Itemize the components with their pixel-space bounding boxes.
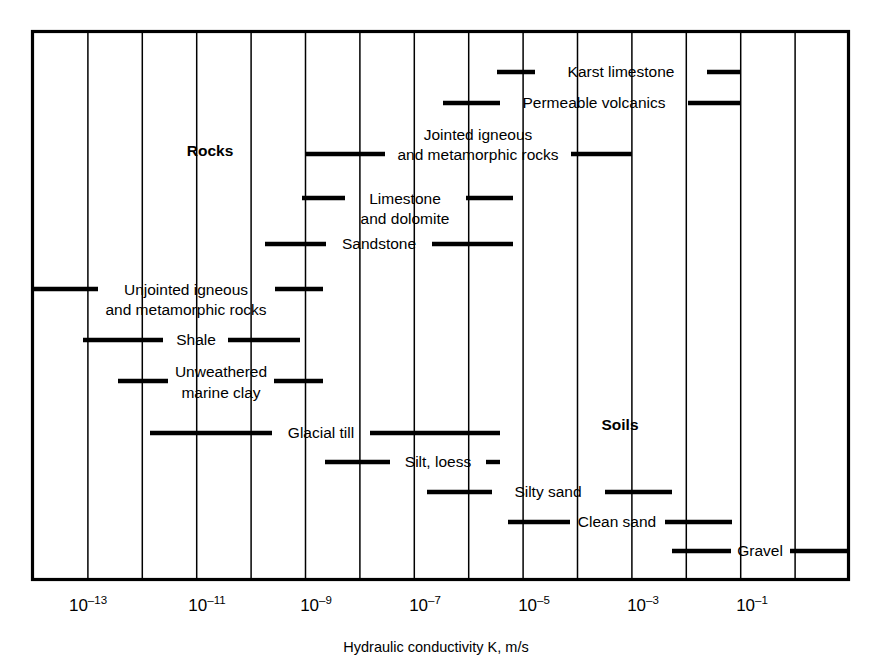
bar-label-silty-sand: Silty sand [514, 483, 581, 500]
bar-label-clean-sand: Clean sand [578, 513, 656, 530]
bar-label-unjointed-igneous-line1: Unjointed igneous [124, 281, 248, 298]
group-label-soils: Soils [601, 416, 638, 433]
tick-label-1e-7: 10–7 [409, 594, 441, 615]
hydraulic-conductivity-figure: Karst limestone Permeable volcanics Join… [0, 0, 872, 667]
bar-label-shale: Shale [176, 331, 216, 348]
x-axis-tick-labels: 10–13 10–11 10–9 10–7 10–5 10–3 10–1 [69, 594, 768, 615]
tick-label-1e-13: 10–13 [69, 594, 107, 615]
bar-label-marine-clay-line1: Unweathered [175, 363, 267, 380]
tick-label-1e-3: 10–3 [627, 594, 659, 615]
bar-label-permeable-volcanics: Permeable volcanics [522, 94, 665, 111]
bar-label-sandstone: Sandstone [342, 235, 416, 252]
group-label-rocks: Rocks [187, 142, 234, 159]
bar-label-marine-clay-line2: marine clay [181, 384, 260, 401]
bar-label-jointed-igneous-line1: Jointed igneous [424, 126, 533, 143]
tick-label-1e-1: 10–1 [736, 594, 768, 615]
bar-label-glacial-till: Glacial till [288, 424, 354, 441]
tick-label-1e-9: 10–9 [300, 594, 332, 615]
tick-label-1e-11: 10–11 [188, 594, 225, 615]
bar-label-jointed-igneous-line2: and metamorphic rocks [397, 146, 558, 163]
bar-label-silt-loess: Silt, loess [405, 453, 472, 470]
x-axis-title: Hydraulic conductivity K, m/s [343, 639, 528, 655]
bar-label-unjointed-igneous-line2: and metamorphic rocks [105, 301, 266, 318]
bar-label-karst-limestone: Karst limestone [568, 63, 675, 80]
tick-label-1e-5: 10–5 [518, 594, 550, 615]
bar-label-gravel: Gravel [737, 542, 783, 559]
bar-label-limestone-line2: and dolomite [361, 210, 450, 227]
bar-label-limestone-line1: Limestone [369, 190, 441, 207]
chart-canvas: Karst limestone Permeable volcanics Join… [0, 0, 872, 667]
